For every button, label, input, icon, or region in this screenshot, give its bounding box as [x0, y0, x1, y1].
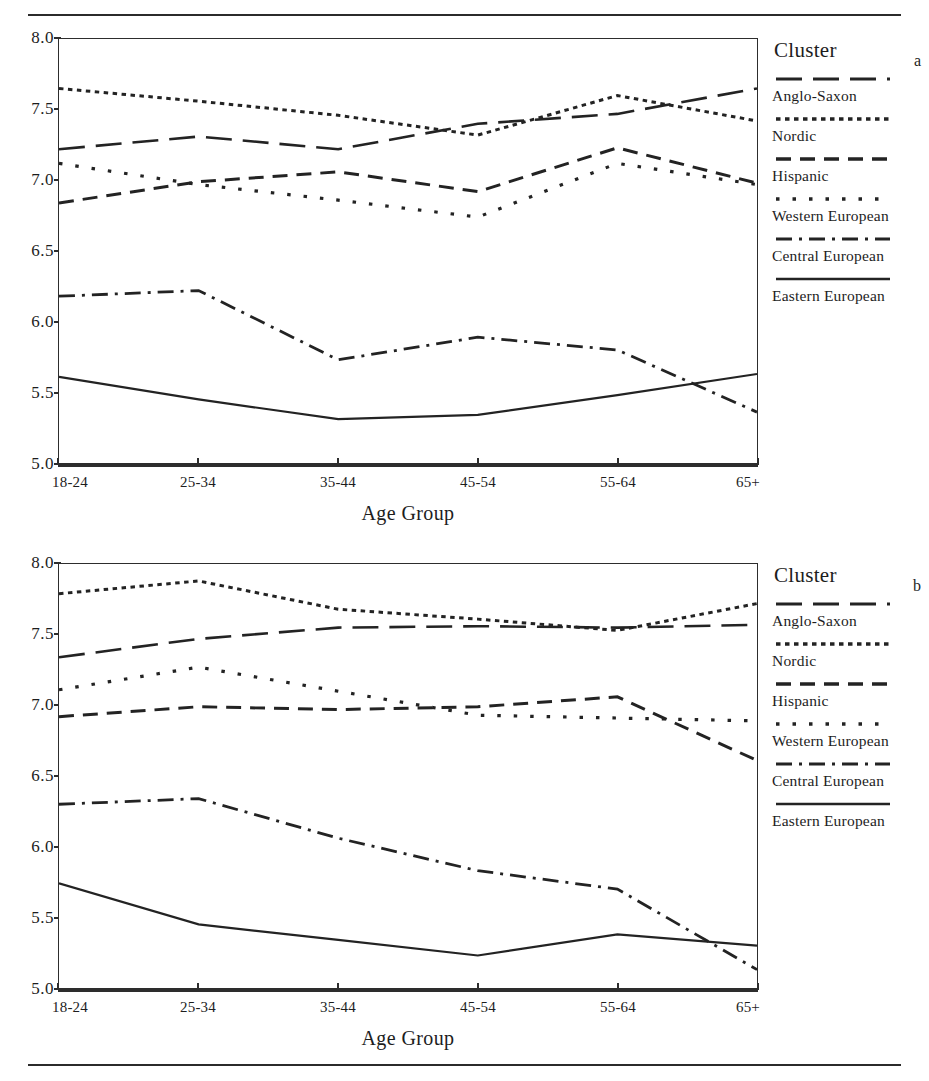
y-axis-b: 8.07.57.06.56.05.55.0 — [0, 563, 54, 989]
series-line-western-european — [59, 667, 757, 721]
x-axis-title-a: Age Group — [58, 502, 758, 525]
x-axis-line-a — [58, 464, 758, 467]
bottom-rule — [28, 1064, 901, 1066]
top-rule — [28, 14, 901, 16]
legend-label: Eastern European — [772, 287, 924, 305]
legend-swatch-sparse-dot-icon — [774, 717, 892, 731]
x-tick-mark — [197, 983, 199, 990]
legend-label: Eastern European — [772, 812, 924, 830]
legend-item: Central European — [772, 232, 924, 265]
legend-label: Hispanic — [772, 692, 924, 710]
chart-panel-b: 8.07.57.06.56.05.55.0 18-2425-3435-4445-… — [0, 551, 929, 1071]
x-tick-label: 25-34 — [180, 999, 216, 1016]
legend-swatch-long-dash-icon — [774, 72, 892, 86]
x-tick-label: 65+ — [736, 999, 760, 1016]
plot-svg-a — [59, 39, 757, 463]
legend-label: Hispanic — [772, 167, 924, 185]
legend-item: Nordic — [772, 112, 924, 145]
y-tick-label: 8.0 — [31, 28, 54, 48]
series-line-anglo-saxon — [59, 625, 757, 658]
legend-item: Hispanic — [772, 677, 924, 710]
y-tick-label: 6.5 — [31, 766, 54, 786]
legend-label: Western European — [772, 732, 924, 750]
legend-item: Anglo-Saxon — [772, 597, 924, 630]
series-line-nordic — [59, 581, 757, 630]
x-tick-mark — [617, 458, 619, 465]
legend-swatch-dash-dot-icon — [774, 757, 892, 771]
legend-swatch-dash-icon — [774, 152, 892, 166]
plot-svg-b — [59, 564, 757, 988]
legend-swatch-fine-dot-icon — [774, 112, 892, 126]
x-axis-title-b: Age Group — [58, 1027, 758, 1050]
x-tick-label: 55-64 — [600, 474, 636, 491]
x-tick-label: 55-64 — [600, 999, 636, 1016]
y-tick-label: 6.5 — [31, 241, 54, 261]
legend-label: Anglo-Saxon — [772, 612, 924, 630]
x-tick-mark — [757, 983, 759, 990]
series-line-hispanic — [59, 697, 757, 761]
legend-swatch-dash-dot-icon — [774, 232, 892, 246]
y-tick-label: 6.0 — [31, 312, 54, 332]
plot-area-b — [58, 563, 758, 989]
legend-item: Eastern European — [772, 272, 924, 305]
y-tick-label: 6.0 — [31, 837, 54, 857]
legend-swatch-fine-dot-icon — [774, 637, 892, 651]
legend-swatch-solid-icon — [774, 272, 892, 286]
x-tick-label: 65+ — [736, 474, 760, 491]
y-tick-label: 7.0 — [31, 170, 54, 190]
y-tick-label: 5.5 — [31, 383, 54, 403]
legend-item: Eastern European — [772, 797, 924, 830]
legend-b: Cluster Anglo-SaxonNordicHispanicWestern… — [772, 563, 924, 837]
y-tick-label: 7.5 — [31, 624, 54, 644]
series-line-nordic — [59, 88, 757, 135]
x-tick-label: 25-34 — [180, 474, 216, 491]
panel-letter-b: b — [913, 577, 921, 595]
page-header-title — [0, 0, 929, 7]
plot-area-a — [58, 38, 758, 464]
x-tick-label: 18-24 — [52, 474, 88, 491]
x-tick-mark — [337, 983, 339, 990]
legend-swatch-long-dash-icon — [774, 597, 892, 611]
legend-a: Cluster Anglo-SaxonNordicHispanicWestern… — [772, 38, 924, 312]
x-tick-label: 45-54 — [460, 474, 496, 491]
y-tick-label: 5.0 — [31, 454, 54, 474]
x-tick-label: 45-54 — [460, 999, 496, 1016]
x-tick-mark — [197, 458, 199, 465]
x-tick-mark — [477, 983, 479, 990]
series-line-eastern-european — [59, 883, 757, 955]
x-tick-label: 35-44 — [320, 999, 356, 1016]
legend-label: Anglo-Saxon — [772, 87, 924, 105]
x-tick-mark — [57, 983, 59, 990]
figure-page: 8.07.57.06.56.05.55.0 18-2425-3435-4445-… — [0, 0, 929, 1081]
y-tick-label: 5.0 — [31, 979, 54, 999]
legend-label: Central European — [772, 247, 924, 265]
x-tick-mark — [57, 458, 59, 465]
series-line-central-european — [59, 799, 757, 970]
x-tick-mark — [617, 983, 619, 990]
legend-swatch-solid-icon — [774, 797, 892, 811]
legend-title-b: Cluster — [774, 563, 924, 588]
legend-label: Nordic — [772, 127, 924, 145]
legend-item: Nordic — [772, 637, 924, 670]
legend-label: Nordic — [772, 652, 924, 670]
legend-item: Anglo-Saxon — [772, 72, 924, 105]
chart-panel-a: 8.07.57.06.56.05.55.0 18-2425-3435-4445-… — [0, 26, 929, 536]
y-tick-label: 5.5 — [31, 908, 54, 928]
y-tick-label: 8.0 — [31, 553, 54, 573]
legend-swatch-sparse-dot-icon — [774, 192, 892, 206]
x-axis-line-b — [58, 989, 758, 992]
series-line-eastern-european — [59, 374, 757, 419]
x-tick-label: 18-24 — [52, 999, 88, 1016]
legend-label: Western European — [772, 207, 924, 225]
series-line-western-european — [59, 163, 757, 217]
x-tick-mark — [337, 458, 339, 465]
x-tick-mark — [477, 458, 479, 465]
series-line-anglo-saxon — [59, 88, 757, 149]
legend-title-a: Cluster — [774, 38, 924, 63]
legend-item: Central European — [772, 757, 924, 790]
legend-swatch-dash-icon — [774, 677, 892, 691]
y-tick-label: 7.0 — [31, 695, 54, 715]
legend-label: Central European — [772, 772, 924, 790]
y-tick-label: 7.5 — [31, 99, 54, 119]
legend-item: Hispanic — [772, 152, 924, 185]
